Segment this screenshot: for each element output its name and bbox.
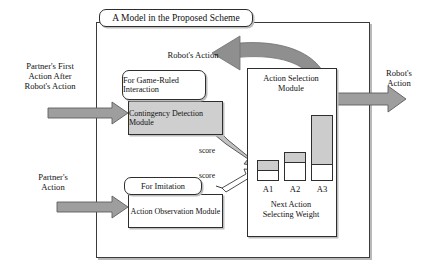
imitation-connector [216,186,222,188]
input-arrow-top [48,102,128,124]
action-observation-module[interactable]: Action Observation Module [128,194,223,228]
score-label-upper: score [199,147,237,156]
bar-label-a3: A3 [311,184,333,194]
output-arrow-right [334,86,406,112]
input-label-top: Partner's First Action After Robot's Act… [4,61,96,91]
page-title: A Model in the Proposed Scheme [99,9,253,27]
bar-label-a2: A2 [284,184,306,194]
for-game-ruled-interaction-caption: For Game-Ruled Interaction [122,70,206,100]
next-action-selecting-weight-caption: Next Action Selecting Weight [247,200,335,220]
bar-a3-upper-segment [312,116,332,165]
arrows-layer [0,0,427,271]
for-imitation-caption: For Imitation [124,177,202,195]
input-label-bottom: Partner's Action [10,172,96,192]
bar-a2 [284,152,306,181]
bar-label-a1: A1 [257,184,279,194]
score-label-lower: score [199,172,237,181]
output-label-right: Robot's Action [372,68,426,88]
bar-a3 [311,115,333,181]
input-arrow-bottom [57,196,128,218]
bar-a2-upper-segment [285,153,305,163]
bar-a1-upper-segment [258,161,278,171]
diagram-canvas: A Model in the Proposed Scheme Contingen… [0,0,427,271]
action-selection-module-label: Action Selection Module [247,74,335,94]
bar-a1 [257,160,279,181]
feedback-label: Robot's Action [148,50,238,60]
contingency-detection-module[interactable]: Contingency Detection Module [128,101,223,135]
